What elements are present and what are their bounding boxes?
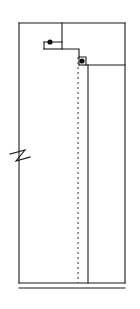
drawing-canvas <box>0 0 140 309</box>
connection-point-1-dot <box>47 39 52 44</box>
section-drawing <box>0 0 140 309</box>
connection-point-2-dot <box>79 58 84 63</box>
